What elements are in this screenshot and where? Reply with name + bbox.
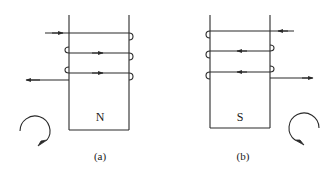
figure-canvas: N (a) [0, 0, 336, 179]
winding-turn-a-2 [65, 47, 133, 60]
input-wire-b [206, 31, 294, 38]
input-wire-a [45, 33, 133, 40]
pole-label-a: N [96, 110, 105, 124]
rotation-arrow-icon-b [289, 113, 319, 145]
rotation-arrow-icon-a [20, 116, 50, 146]
caption-b: (b) [237, 150, 250, 163]
solenoid-figure: N (a) [0, 0, 336, 179]
winding-turn-a-3 [65, 67, 133, 80]
winding-turn-b-3 [206, 66, 274, 79]
pole-label-b: S [237, 110, 244, 124]
winding-turn-b-2 [206, 45, 274, 58]
caption-a: (a) [94, 150, 107, 163]
diagram-a: N (a) [20, 15, 133, 163]
diagram-b: S (b) [206, 15, 319, 163]
